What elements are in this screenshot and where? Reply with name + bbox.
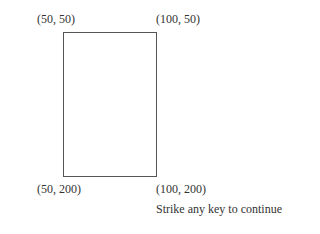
- coordinate-label-top-right: (100, 50): [156, 12, 200, 26]
- continue-prompt: Strike any key to continue: [156, 202, 282, 216]
- coordinate-label-bottom-right: (100, 200): [156, 182, 206, 196]
- coordinate-label-top-left: (50, 50): [37, 12, 75, 26]
- rectangle-shape: [63, 32, 157, 177]
- coordinate-label-bottom-left: (50, 200): [37, 182, 81, 196]
